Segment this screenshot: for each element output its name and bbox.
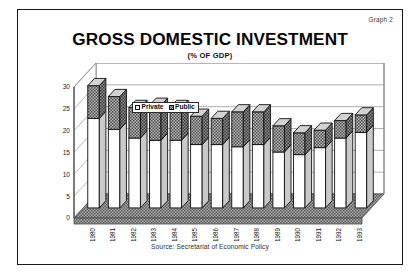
chart-title: GROSS DOMESTIC INVESTMENT <box>18 29 402 50</box>
x-axis-year-label: 1982 <box>130 228 137 241</box>
bar-column <box>108 89 126 208</box>
bar-column <box>293 126 311 208</box>
bar-column <box>170 100 188 208</box>
svg-text:25: 25 <box>63 105 71 112</box>
svg-text:20: 20 <box>63 127 71 134</box>
svg-text:15: 15 <box>63 149 71 156</box>
figure-border: Graph 2 GROSS DOMESTIC INVESTMENT (% OF … <box>17 9 403 265</box>
bar-column <box>149 98 167 208</box>
x-axis-year-label: 1983 <box>150 228 157 241</box>
bar-column <box>355 108 373 208</box>
bar-column <box>129 100 147 208</box>
x-axis-year-label: 1984 <box>171 228 178 241</box>
bar-column <box>252 105 270 208</box>
bar-column <box>211 111 229 208</box>
x-axis-year-label: 1987 <box>233 228 240 241</box>
source-note: Source: Secretariat of Economic Policy <box>18 243 402 250</box>
svg-text:10: 10 <box>63 171 71 178</box>
bar-column <box>88 78 106 207</box>
svg-text:30: 30 <box>63 83 71 90</box>
x-axis-year-label: 1985 <box>191 228 198 241</box>
legend-swatch-public-icon <box>169 105 174 110</box>
chart-subtitle: (% OF GDP) <box>18 51 402 60</box>
x-axis-year-label: 1988 <box>253 228 260 241</box>
chart-legend: Private Public <box>132 102 199 113</box>
legend-entry-public: Public <box>169 104 195 111</box>
x-axis-year-label: 1990 <box>294 228 301 241</box>
x-axis-year-label: 1989 <box>274 228 281 241</box>
x-axis-year-label: 1980 <box>89 228 96 241</box>
graph-number-label: Graph 2 <box>369 16 394 23</box>
stacked-column-chart-svg: 0510152025301980198119821983198419851986… <box>28 63 394 241</box>
chart-plot-area: 0510152025301980198119821983198419851986… <box>28 63 394 241</box>
bar-column <box>273 119 291 208</box>
svg-text:5: 5 <box>66 193 70 200</box>
x-axis-year-label: 1992 <box>335 228 342 241</box>
legend-swatch-private-icon <box>135 105 140 110</box>
bar-column <box>314 123 332 208</box>
x-axis-year-label: 1991 <box>315 228 322 241</box>
bar-column <box>191 109 209 208</box>
x-axis-year-label: 1981 <box>109 228 116 241</box>
bar-column <box>335 113 353 208</box>
svg-text:0: 0 <box>66 214 70 221</box>
legend-label-public: Public <box>175 104 195 111</box>
legend-label-private: Private <box>142 104 164 111</box>
x-axis-year-label: 1986 <box>212 228 219 241</box>
legend-entry-private: Private <box>135 104 164 111</box>
scanned-figure-page: Graph 2 GROSS DOMESTIC INVESTMENT (% OF … <box>0 0 419 277</box>
x-axis-year-label: 1993 <box>356 228 363 241</box>
bar-column <box>232 105 250 208</box>
